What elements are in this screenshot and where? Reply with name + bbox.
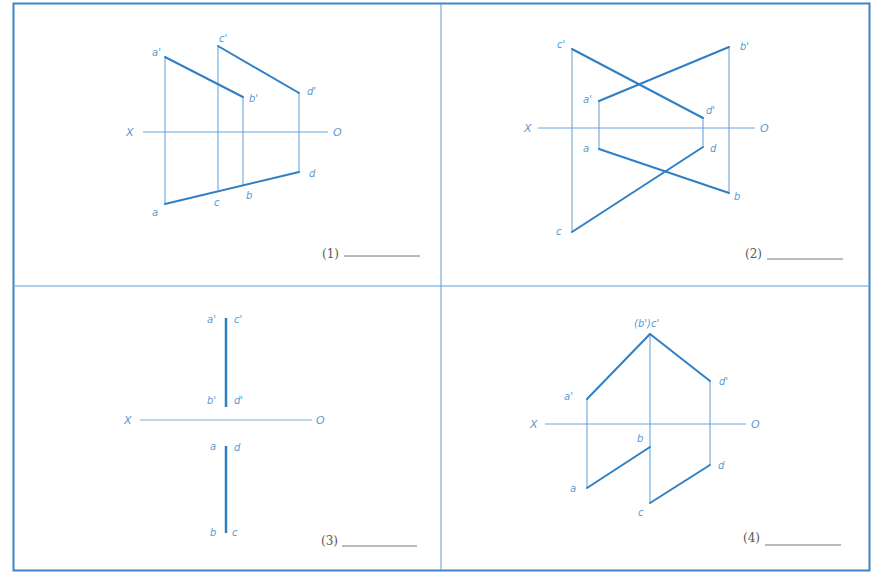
axis-x-label: X [529, 418, 538, 431]
problem-number: (3) [321, 534, 338, 548]
exercise-sheet: X O a' c' b' d' a c b d (1) [0, 0, 876, 577]
panel-2: X O c' b' a' d' a d b c (2) [523, 39, 843, 261]
segment-c-prime-d-prime [650, 334, 710, 381]
segment-a-b [587, 447, 650, 488]
line-segments [165, 46, 299, 204]
segment-c-d [572, 147, 703, 232]
frame [13, 4, 870, 571]
label-c-prime: c' [234, 314, 242, 325]
label-a-prime: a' [207, 314, 216, 325]
panel-1: X O a' c' b' d' a c b d (1) [125, 33, 420, 261]
label-d-prime: d' [307, 86, 316, 97]
problem-number: (4) [743, 531, 760, 545]
axis-o-label: O [760, 122, 769, 135]
label-a: a [583, 143, 589, 154]
label-b: b [246, 190, 252, 201]
segment-c-prime-d-prime [572, 49, 703, 118]
label-d-prime: d' [719, 376, 728, 387]
projection-lines [165, 46, 299, 204]
label-c: c [556, 226, 562, 237]
problem-number: (1) [322, 247, 339, 261]
label-a: a [152, 207, 158, 218]
segment-c-d [650, 465, 710, 503]
label-a-prime: a' [152, 47, 161, 58]
label-c: c [638, 507, 644, 518]
segment-c-prime-d-prime [218, 46, 299, 93]
line-segments [587, 334, 710, 503]
axis-x-label: X [123, 414, 132, 427]
label-d: d [309, 168, 316, 179]
label-d: d [234, 442, 241, 453]
label-b-prime-c-prime: (b')c' [634, 318, 659, 329]
label-d-prime: d' [234, 395, 243, 406]
label-b-prime: b' [740, 41, 749, 52]
label-b: b [734, 191, 740, 202]
axis-o-label: O [751, 418, 760, 431]
axis-o-label: O [316, 414, 325, 427]
segment-a-prime-b-prime [165, 57, 243, 97]
problem-number: (2) [745, 247, 762, 261]
panel-4: X O (b')c' a' d' b a d c (4) [529, 318, 841, 545]
axis-x-label: X [523, 122, 532, 135]
panel-3: X O a' c' b' d' a d b c (3) [123, 314, 417, 548]
label-a: a [570, 483, 576, 494]
label-d: d [710, 143, 717, 154]
label-c: c [232, 527, 238, 538]
label-b-prime: b' [249, 93, 258, 104]
segment-a-prime-c-prime [587, 334, 650, 399]
projection-lines [572, 47, 729, 232]
label-c-prime: c' [557, 39, 565, 50]
label-b-prime: b' [207, 395, 216, 406]
label-b: b [637, 433, 643, 444]
segment-a-d [165, 172, 299, 204]
label-b: b [210, 527, 216, 538]
line-segments [572, 47, 729, 232]
axis-o-label: O [333, 126, 342, 139]
axis-x-label: X [125, 126, 134, 139]
label-a-prime: a' [564, 391, 573, 402]
label-a-prime: a' [583, 94, 592, 105]
label-c: c [214, 197, 220, 208]
label-d-prime: d' [706, 105, 715, 116]
label-c-prime: c' [219, 33, 227, 44]
segment-a-b [599, 149, 729, 193]
label-d: d [718, 460, 725, 471]
label-a: a [210, 441, 216, 452]
